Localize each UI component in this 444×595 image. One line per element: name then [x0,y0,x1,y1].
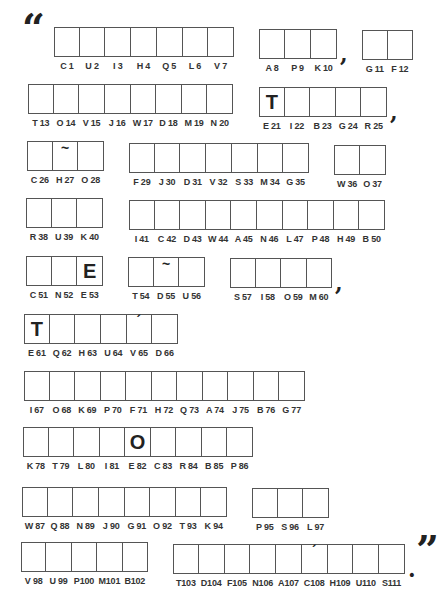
letter-cell[interactable]: R 25 [361,87,387,117]
letter-cell[interactable]: D 66 [152,314,178,344]
letter-cell[interactable]: N 20 [207,84,233,114]
letter-cell[interactable]: ~D 55 [154,257,180,287]
letter-cell[interactable]: I 41 [129,200,155,230]
letter-cell[interactable]: D104 [199,544,225,574]
letter-cell[interactable]: F 71 [126,371,152,401]
letter-cell[interactable]: L 6 [183,27,209,57]
letter-cell[interactable]: N 89 [73,487,99,517]
letter-cell[interactable]: O 14 [54,84,80,114]
letter-cell[interactable]: C 83 [151,427,177,457]
letter-cell[interactable]: A 8 [259,29,285,59]
letter-cell[interactable]: V 32 [206,143,232,173]
letter-cell[interactable]: P100 [72,542,97,572]
letter-cell[interactable]: A 45 [231,200,257,230]
letter-cell[interactable]: H 4 [131,27,157,57]
letter-cell[interactable]: U 2 [80,27,106,57]
letter-cell[interactable]: P 86 [227,427,253,457]
letter-cell[interactable]: C 51 [26,256,52,286]
letter-cell[interactable]: Q 88 [48,487,74,517]
letter-cell[interactable]: P 48 [308,200,334,230]
letter-cell[interactable]: J 75 [228,371,254,401]
letter-cell[interactable]: M 60 [307,258,333,288]
letter-cell[interactable]: F 29 [129,143,155,173]
letter-cell[interactable]: I 81 [100,427,126,457]
letter-cell[interactable]: G 35 [283,143,309,173]
letter-cell[interactable]: TE 21 [259,87,285,117]
letter-cell[interactable]: T103 [173,544,199,574]
letter-cell[interactable]: N 52 [52,256,78,286]
letter-cell[interactable]: OE 82 [125,427,151,457]
letter-cell[interactable]: B102 [123,542,148,572]
letter-cell[interactable]: T 93 [176,487,202,517]
letter-cell[interactable]: ´V 65 [127,314,153,344]
letter-cell[interactable]: S 57 [230,258,256,288]
letter-cell[interactable]: W 44 [206,200,232,230]
letter-cell[interactable]: U 39 [52,198,78,228]
letter-cell[interactable]: ´C108 [302,544,328,574]
letter-cell[interactable]: B 50 [359,200,385,230]
letter-cell[interactable]: K 40 [77,198,103,228]
letter-cell[interactable]: H109 [328,544,354,574]
letter-cell[interactable]: F105 [225,544,251,574]
letter-cell[interactable]: O 68 [50,371,76,401]
letter-cell[interactable]: Q 73 [177,371,203,401]
letter-cell[interactable]: B 85 [202,427,228,457]
letter-cell[interactable]: T 13 [28,84,54,114]
letter-cell[interactable]: H 63 [75,314,101,344]
letter-cell[interactable]: P 95 [252,488,278,518]
letter-cell[interactable]: T 54 [128,257,154,287]
letter-cell[interactable]: B 23 [310,87,336,117]
letter-cell[interactable]: N 46 [257,200,283,230]
letter-cell[interactable]: H 72 [152,371,178,401]
letter-cell[interactable]: D 31 [180,143,206,173]
letter-cell[interactable]: H 49 [334,200,360,230]
letter-cell[interactable]: M 34 [258,143,284,173]
letter-cell[interactable]: V 15 [79,84,105,114]
letter-cell[interactable]: R 84 [176,427,202,457]
letter-cell[interactable]: L 80 [74,427,100,457]
letter-cell[interactable]: G 11 [362,30,388,60]
letter-cell[interactable]: I 67 [24,371,50,401]
letter-cell[interactable]: I 22 [285,87,311,117]
letter-cell[interactable]: K 10 [311,29,337,59]
letter-cell[interactable]: S 33 [232,143,258,173]
letter-cell[interactable]: O 28 [78,141,104,171]
letter-cell[interactable]: U 64 [101,314,127,344]
letter-cell[interactable]: W 36 [334,145,360,175]
letter-cell[interactable]: U110 [353,544,379,574]
letter-cell[interactable]: I 58 [256,258,282,288]
letter-cell[interactable]: K 94 [201,487,227,517]
letter-cell[interactable]: J 16 [105,84,131,114]
letter-cell[interactable]: Q 62 [50,314,76,344]
letter-cell[interactable]: D 18 [156,84,182,114]
letter-cell[interactable]: V 7 [208,27,234,57]
letter-cell[interactable]: J 90 [99,487,125,517]
letter-cell[interactable]: ~H 27 [53,141,79,171]
letter-cell[interactable]: K 78 [23,427,49,457]
letter-cell[interactable]: T 79 [49,427,75,457]
letter-cell[interactable]: W 17 [131,84,157,114]
letter-cell[interactable]: D 43 [180,200,206,230]
letter-cell[interactable]: U 56 [179,257,205,287]
letter-cell[interactable]: B 76 [254,371,280,401]
letter-cell[interactable]: TE 61 [24,314,50,344]
letter-cell[interactable]: C 42 [155,200,181,230]
letter-cell[interactable]: L 47 [283,200,309,230]
letter-cell[interactable]: EE 53 [77,256,103,286]
letter-cell[interactable]: I 3 [105,27,131,57]
letter-cell[interactable]: P 70 [101,371,127,401]
letter-cell[interactable]: P 9 [285,29,311,59]
letter-cell[interactable]: V 98 [21,542,46,572]
letter-cell[interactable]: C 1 [54,27,80,57]
letter-cell[interactable]: A 74 [203,371,229,401]
letter-cell[interactable]: Q 5 [157,27,183,57]
letter-cell[interactable]: F 12 [388,30,414,60]
letter-cell[interactable]: W 87 [22,487,48,517]
letter-cell[interactable]: K 69 [75,371,101,401]
letter-cell[interactable]: O 59 [281,258,307,288]
letter-cell[interactable]: S111 [379,544,405,574]
letter-cell[interactable]: J 30 [155,143,181,173]
letter-cell[interactable]: G 77 [279,371,305,401]
letter-cell[interactable]: L 97 [303,488,329,518]
letter-cell[interactable]: R 38 [26,198,52,228]
